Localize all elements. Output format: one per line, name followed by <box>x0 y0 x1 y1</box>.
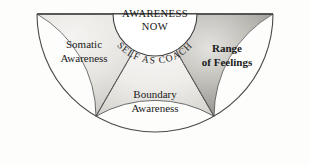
sector-label-boundary-line1: Boundary <box>133 88 177 100</box>
sector-label-somatic-line2: Awareness <box>60 52 107 64</box>
center-label-line1: AWARENESS <box>122 8 188 19</box>
sector-label-feelings-line2: of Feelings <box>202 56 253 68</box>
center-label-line2: NOW <box>142 21 168 32</box>
sector-label-feelings-line1: Range <box>212 42 242 54</box>
diagram-canvas: SELF AS COACH AWARENESS NOW Somatic Awar… <box>0 0 310 165</box>
sector-label-somatic-line1: Somatic <box>66 38 102 50</box>
sector-label-boundary-line2: Awareness <box>131 102 178 114</box>
awareness-now-diagram: SELF AS COACH AWARENESS NOW Somatic Awar… <box>0 0 310 165</box>
